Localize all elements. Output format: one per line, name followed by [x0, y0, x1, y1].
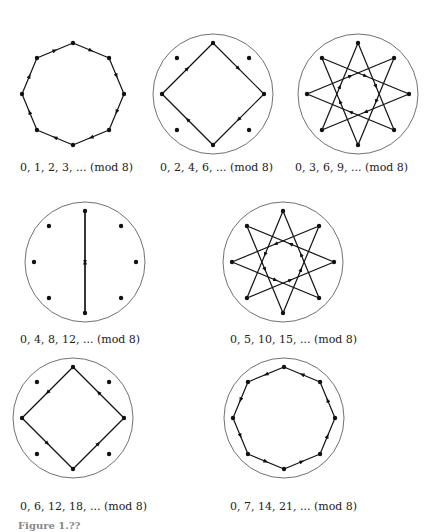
panel-caption: 0, 7, 14, 21, ... (mod 8): [230, 500, 357, 513]
node-dot: [230, 260, 234, 264]
figure-caption: Figure 1.??: [18, 520, 80, 531]
diagram-p3: [298, 34, 418, 154]
panel-caption: 0, 3, 6, 9, ... (mod 8): [295, 161, 408, 174]
node-dot: [407, 92, 411, 96]
node-dot: [71, 365, 75, 369]
node-dot: [35, 128, 39, 132]
node-dot: [333, 416, 337, 420]
node-dot: [262, 92, 266, 96]
node-dot: [175, 56, 179, 60]
node-dot: [317, 296, 321, 300]
node-dot: [211, 41, 215, 45]
node-dot: [356, 143, 360, 147]
panel-caption: 0, 1, 2, 3, ... (mod 8): [20, 161, 133, 174]
panel-caption: 0, 6, 12, 18, ... (mod 8): [20, 500, 147, 513]
node-dot: [35, 452, 39, 456]
node-dot: [246, 380, 250, 384]
node-dot: [20, 92, 24, 96]
panel-caption: 0, 5, 10, 15, ... (mod 8): [230, 333, 357, 346]
node-dot: [282, 467, 286, 471]
node-dot: [247, 56, 251, 60]
node-dot: [134, 260, 138, 264]
node-dot: [20, 416, 24, 420]
node-dot: [107, 128, 111, 132]
node-dot: [107, 452, 111, 456]
node-dot: [245, 224, 249, 228]
node-dot: [122, 92, 126, 96]
diagram-p7: [224, 358, 344, 478]
node-dot: [83, 209, 87, 213]
node-dot: [356, 41, 360, 45]
diagram-p2: [153, 34, 273, 154]
node-dot: [231, 416, 235, 420]
node-dot: [107, 380, 111, 384]
diagram-p4: [25, 202, 145, 322]
node-dot: [175, 128, 179, 132]
diagram-p1: [20, 41, 126, 147]
node-dot: [318, 452, 322, 456]
panel-caption: 0, 4, 8, 12, ... (mod 8): [20, 333, 140, 346]
node-dot: [281, 311, 285, 315]
node-dot: [245, 296, 249, 300]
node-dot: [246, 452, 250, 456]
node-dot: [119, 296, 123, 300]
node-dot: [281, 209, 285, 213]
node-dot: [107, 56, 111, 60]
diagram-p6: [13, 358, 133, 478]
node-dot: [35, 380, 39, 384]
node-dot: [282, 365, 286, 369]
node-dot: [71, 143, 75, 147]
node-dot: [35, 56, 39, 60]
node-dot: [122, 416, 126, 420]
node-dot: [47, 296, 51, 300]
node-dot: [320, 56, 324, 60]
node-dot: [332, 260, 336, 264]
node-dot: [320, 128, 324, 132]
node-dot: [160, 92, 164, 96]
node-dot: [211, 143, 215, 147]
node-dot: [247, 128, 251, 132]
node-dot: [305, 92, 309, 96]
node-dot: [32, 260, 36, 264]
node-dot: [392, 128, 396, 132]
node-dot: [392, 56, 396, 60]
modular-star-diagrams: [0, 0, 447, 532]
panel-caption: 0, 2, 4, 6, ... (mod 8): [160, 161, 273, 174]
node-dot: [47, 224, 51, 228]
node-dot: [317, 224, 321, 228]
diagram-p5: [223, 202, 343, 322]
node-dot: [71, 41, 75, 45]
node-dot: [119, 224, 123, 228]
node-dot: [83, 311, 87, 315]
node-dot: [318, 380, 322, 384]
node-dot: [71, 467, 75, 471]
